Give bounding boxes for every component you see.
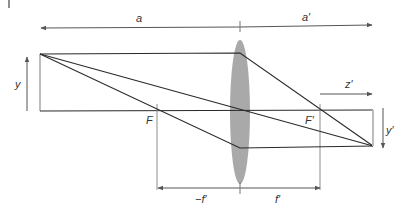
thin-lens-diagram: a a′ y F F′ y′ z′ −f′ f′ — [0, 0, 412, 215]
dimension-arrow-a — [41, 27, 240, 28]
label-y-prime: y′ — [385, 124, 395, 136]
label-minus-f-prime: −f′ — [195, 193, 207, 205]
lens — [230, 40, 250, 184]
label-y: y — [14, 78, 22, 90]
dimension-arrow-a-prime — [240, 25, 372, 27]
label-F: F — [146, 114, 154, 126]
label-a-prime: a′ — [302, 11, 311, 23]
label-f-prime: f′ — [275, 193, 281, 205]
label-z-prime: z′ — [344, 78, 354, 90]
label-a: a — [136, 12, 142, 24]
label-F-prime: F′ — [305, 114, 315, 126]
